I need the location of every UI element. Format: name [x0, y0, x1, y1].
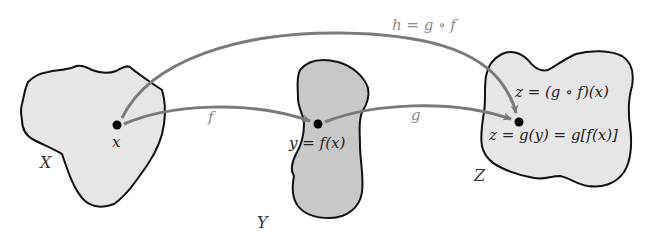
set-x-label: X — [40, 155, 51, 171]
arrow-g-label: g — [411, 108, 421, 123]
set-z-region — [481, 51, 633, 186]
set-z-label: Z — [474, 168, 485, 184]
diagram-canvas — [0, 0, 656, 245]
arrow-f-label: f — [208, 110, 214, 125]
composition-diagram: h = g ∘ f f g x X y = f(x) Y z = (g ∘ f)… — [0, 0, 656, 245]
point-z-label-bottom: z = g(y) = g[f(x)] — [489, 128, 618, 143]
set-y-label: Y — [257, 215, 268, 231]
point-z-label-top: z = (g ∘ f)(x) — [515, 85, 609, 100]
point-y — [314, 120, 323, 129]
point-x — [113, 121, 122, 130]
arrow-h-label: h = g ∘ f — [392, 18, 456, 33]
point-y-label: y = f(x) — [289, 136, 345, 151]
point-x-label: x — [112, 135, 120, 150]
